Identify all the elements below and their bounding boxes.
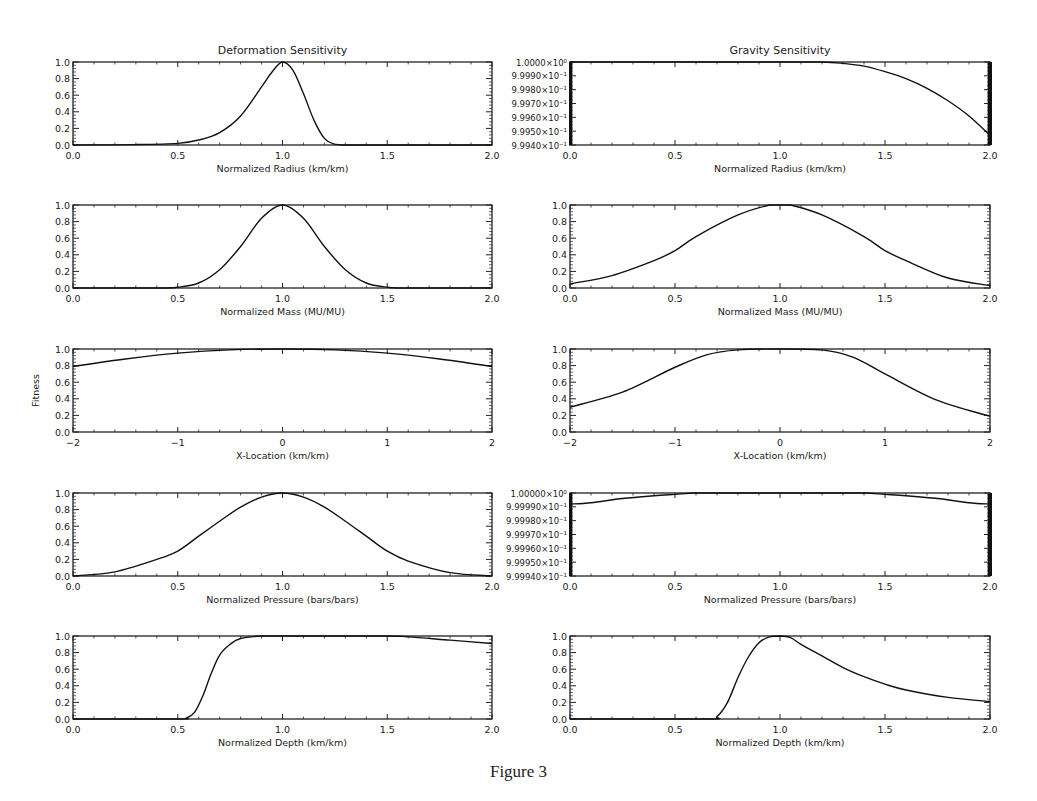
- y-tick-label: 1.0: [55, 631, 70, 642]
- y-tick-label: 0.0: [55, 283, 70, 294]
- y-tick-label: 9.9940×10⁻¹: [511, 141, 567, 151]
- y-tick-label: 0.0: [552, 283, 567, 294]
- x-tick-label: 1.5: [380, 724, 395, 735]
- x-tick-label: 1.0: [772, 724, 787, 735]
- y-tick-label: 0.8: [552, 216, 567, 227]
- x-tick-label: 0.0: [562, 724, 577, 735]
- x-tick-label: 0: [279, 437, 285, 448]
- x-tick-label: 1.5: [877, 581, 892, 592]
- panel-deformation-pressure: 0.00.51.01.52.00.00.20.40.60.81.0Normali…: [55, 488, 500, 606]
- plot-frame: [73, 493, 492, 576]
- y-tick-label: 9.99980×10⁻¹: [506, 516, 567, 526]
- x-tick-label: 1: [384, 437, 390, 448]
- y-tick-label: 9.9990×10⁻¹: [511, 71, 567, 81]
- x-tick-label: 1: [882, 437, 888, 448]
- x-tick-label: 1.5: [877, 150, 892, 161]
- y-tick-label: 0.6: [55, 521, 70, 532]
- x-tick-label: 1.0: [275, 724, 290, 735]
- y-tick-label: 0.2: [552, 266, 567, 277]
- x-tick-label: 2.0: [484, 293, 499, 304]
- y-tick-label: 9.99990×10⁻¹: [506, 502, 567, 512]
- plot-frame: [73, 349, 492, 432]
- panel-gravity-pressure: 0.00.51.01.52.09.99940×10⁻¹9.99950×10⁻¹9…: [506, 489, 998, 606]
- y-tick-label: 1.0: [552, 200, 567, 211]
- x-tick-label: 0.5: [667, 724, 682, 735]
- plot-frame: [73, 205, 492, 288]
- y-tick-label: 0.4: [552, 249, 567, 260]
- x-axis-label: Normalized Radius (km/km): [714, 163, 846, 174]
- x-axis-label: Normalized Pressure (bars/bars): [704, 594, 857, 605]
- x-tick-label: 0.0: [562, 581, 577, 592]
- data-line: [73, 62, 492, 145]
- y-tick-label: 1.0: [55, 57, 70, 68]
- y-tick-label: 1.0: [55, 344, 70, 355]
- plot-frame: [570, 349, 990, 432]
- y-tick-label: 0.4: [55, 249, 70, 260]
- x-axis-label: X-Location (km/km): [734, 450, 827, 461]
- y-tick-label: 0.4: [55, 680, 70, 691]
- x-axis-label: Normalized Depth (km/km): [716, 737, 845, 748]
- column-title: Gravity Sensitivity: [730, 44, 831, 57]
- y-axis-label: Fitness: [30, 374, 41, 407]
- x-tick-label: 2: [987, 437, 993, 448]
- x-tick-label: 1.0: [275, 293, 290, 304]
- panel-gravity-mass: 0.00.51.01.52.00.00.20.40.60.81.0Normali…: [552, 200, 998, 318]
- x-tick-label: 0.5: [170, 150, 185, 161]
- y-tick-label: 1.0000×10⁰: [516, 58, 568, 68]
- data-line: [570, 349, 990, 416]
- x-axis-label: Normalized Radius (km/km): [217, 163, 349, 174]
- x-tick-label: 1.0: [275, 581, 290, 592]
- y-tick-label: 0.6: [552, 664, 567, 675]
- plot-frame: [570, 62, 990, 145]
- panel-deformation-depth: 0.00.51.01.52.00.00.20.40.60.81.0Normali…: [55, 631, 500, 749]
- panel-gravity-radius: 0.00.51.01.52.09.9940×10⁻¹9.9950×10⁻¹9.9…: [511, 58, 997, 175]
- x-tick-label: 0.0: [562, 293, 577, 304]
- y-tick-label: 0.2: [55, 554, 70, 565]
- y-tick-label: 0.6: [55, 233, 70, 244]
- x-tick-label: 0.0: [65, 581, 80, 592]
- x-tick-label: 1.0: [772, 150, 787, 161]
- x-tick-label: 0.5: [170, 581, 185, 592]
- panel-gravity-xlocation: −2−10120.00.20.40.60.81.0X-Location (km/…: [552, 344, 993, 462]
- y-tick-label: 0.0: [552, 714, 567, 725]
- panel-deformation-radius: 0.00.51.01.52.00.00.20.40.60.81.0Normali…: [55, 57, 500, 175]
- y-tick-label: 9.99960×10⁻¹: [506, 544, 567, 554]
- x-tick-label: 1.5: [877, 724, 892, 735]
- y-tick-label: 0.0: [55, 571, 70, 582]
- data-line: [73, 205, 492, 288]
- y-tick-label: 0.6: [55, 90, 70, 101]
- x-axis-label: Normalized Pressure (bars/bars): [206, 594, 359, 605]
- y-tick-label: 0.4: [552, 393, 567, 404]
- x-tick-label: 0.5: [667, 581, 682, 592]
- x-tick-label: 1.5: [380, 581, 395, 592]
- x-tick-label: 2.0: [484, 724, 499, 735]
- y-tick-label: 0.4: [55, 106, 70, 117]
- x-tick-label: 2.0: [982, 724, 997, 735]
- y-tick-label: 9.99940×10⁻¹: [506, 572, 567, 582]
- y-tick-label: 9.9970×10⁻¹: [511, 99, 567, 109]
- y-tick-label: 9.9950×10⁻¹: [511, 127, 567, 137]
- x-tick-label: 1.5: [877, 293, 892, 304]
- x-tick-label: 2.0: [982, 581, 997, 592]
- x-tick-label: 0.0: [65, 150, 80, 161]
- x-tick-label: 2.0: [982, 150, 997, 161]
- data-line: [570, 62, 990, 135]
- y-tick-label: 0.0: [55, 140, 70, 151]
- figure-canvas: Deformation SensitivityGravity Sensitivi…: [0, 0, 1037, 801]
- x-tick-label: 1.0: [275, 150, 290, 161]
- plot-frame: [73, 62, 492, 145]
- y-tick-label: 0.2: [55, 410, 70, 421]
- y-tick-label: 1.0: [552, 631, 567, 642]
- y-tick-label: 0.0: [55, 427, 70, 438]
- y-tick-label: 1.0: [55, 488, 70, 499]
- x-axis-label: Normalized Mass (MU/MU): [220, 306, 345, 317]
- y-tick-label: 0.4: [552, 680, 567, 691]
- y-tick-label: 9.99970×10⁻¹: [506, 530, 567, 540]
- x-tick-label: 2.0: [982, 293, 997, 304]
- y-tick-label: 0.2: [55, 123, 70, 134]
- y-tick-label: 0.0: [552, 427, 567, 438]
- column-title: Deformation Sensitivity: [218, 44, 348, 57]
- y-tick-label: 9.9960×10⁻¹: [511, 113, 567, 123]
- x-axis-label: Normalized Mass (MU/MU): [718, 306, 843, 317]
- y-tick-label: 0.6: [552, 233, 567, 244]
